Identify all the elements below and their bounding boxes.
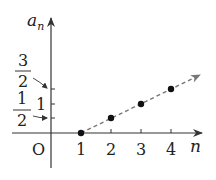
y-axis-label: an (27, 10, 44, 33)
point-2 (108, 115, 114, 121)
y-tick-three-halves: 3 2 (15, 51, 47, 91)
x-axis-label: n (190, 136, 201, 156)
y-tick-1: 1 (36, 95, 46, 114)
svg-text:2: 2 (17, 111, 27, 130)
x-tick-4: 4 (166, 140, 176, 159)
origin-label: O (32, 140, 45, 159)
svg-text:3: 3 (18, 51, 28, 70)
point-3 (138, 101, 144, 107)
point-1 (78, 130, 84, 136)
x-tick-3: 3 (136, 140, 146, 159)
sequence-chart: an n O 1 2 3 4 1 3 2 1 2 (0, 0, 216, 180)
x-tick-2: 2 (106, 140, 116, 159)
point-4 (168, 86, 174, 92)
svg-text:1: 1 (17, 89, 27, 108)
x-tick-1: 1 (76, 140, 86, 159)
